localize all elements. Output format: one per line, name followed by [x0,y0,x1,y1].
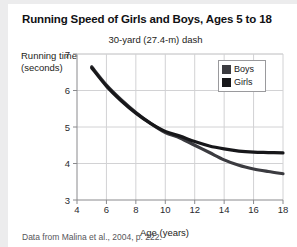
tick-label-y: 7 [65,49,70,60]
legend-label-boys: Boys [234,65,254,74]
figure-card: Running Speed of Girls and Boys, Ages 5 … [8,4,297,247]
legend-label-girls: Girls [234,78,253,87]
legend-swatch-girls [222,78,231,87]
tick-label-y: 6 [65,85,70,96]
source-caption: Data from Malina et al., 2004, p. 222. [22,232,162,242]
tick-label-x: 6 [104,204,109,215]
chart-plot: 345674681012141618 [8,4,297,247]
tick-label-x: 8 [133,204,138,215]
legend-swatch-boys [222,65,231,74]
tick-label-x: 10 [160,204,171,215]
tick-label-y: 3 [65,195,70,206]
tick-label-x: 4 [74,204,79,215]
chart-legend: Boys Girls [218,60,266,92]
legend-item-girls: Girls [222,76,265,89]
tick-label-y: 4 [65,158,70,169]
tick-label-x: 12 [189,204,200,215]
tick-label-x: 14 [219,204,230,215]
legend-item-boys: Boys [222,63,265,76]
tick-label-x: 16 [248,204,259,215]
tick-label-y: 5 [65,122,70,133]
tick-label-x: 18 [278,204,289,215]
